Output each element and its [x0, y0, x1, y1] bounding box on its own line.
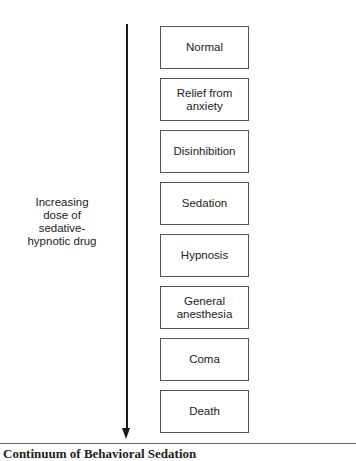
stage-sedation: Sedation — [160, 182, 249, 225]
arrow-label: Increasing dose of sedative- hypnotic dr… — [2, 196, 122, 248]
arrow-label-line: dose of — [2, 209, 122, 222]
stage-death: Death — [160, 390, 249, 433]
stage-coma: Coma — [160, 338, 249, 381]
stage-relief-from-anxiety: Relief from anxiety — [160, 78, 249, 121]
stage-label: Disinhibition — [173, 145, 235, 158]
stage-label: Coma — [189, 353, 220, 366]
stage-disinhibition: Disinhibition — [160, 130, 249, 173]
stage-label: anesthesia — [177, 308, 233, 321]
stage-label: Death — [189, 405, 220, 418]
stage-label: anxiety — [186, 100, 222, 113]
arrow-label-line: sedative- — [2, 222, 122, 235]
arrow-label-line: hypnotic drug — [2, 235, 122, 248]
stage-label: Relief from — [177, 87, 233, 100]
stage-hypnosis: Hypnosis — [160, 234, 249, 277]
stage-general-anesthesia: General anesthesia — [160, 286, 249, 329]
caption-divider — [0, 443, 356, 444]
stage-label: General — [184, 295, 225, 308]
stage-normal: Normal — [160, 26, 249, 69]
stage-label: Normal — [186, 41, 223, 54]
arrow-down-icon — [122, 428, 130, 439]
stage-label: Hypnosis — [181, 249, 228, 262]
dose-arrow-shaft — [126, 24, 128, 430]
figure-caption: Continuum of Behavioral Sedation — [3, 446, 196, 461]
stage-label: Sedation — [182, 197, 227, 210]
arrow-label-line: Increasing — [2, 196, 122, 209]
